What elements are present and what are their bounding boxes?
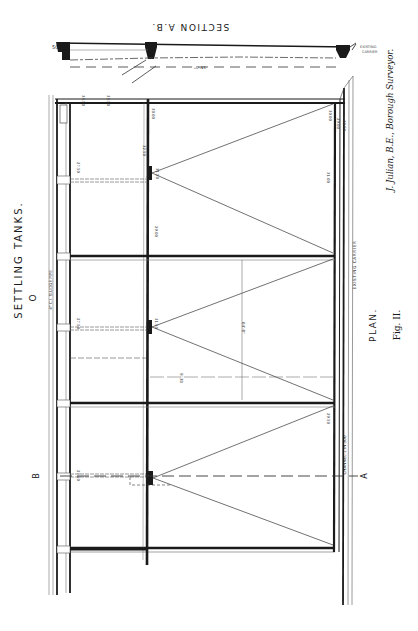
plan-view: 64'-8" 9'-30 34.50 33.50 30.00 32.50 31.… (48, 76, 358, 605)
svg-text:27.50: 27.50 (76, 470, 81, 481)
channel-label: CHANNEL 1 IN 300 (342, 435, 347, 475)
credit-line: J. Julian, B.E., Borough Surveyor. (385, 49, 395, 193)
tank-length-dimension: 9'-30 (179, 373, 184, 384)
main-title: SETTLING TANKS. (13, 201, 24, 318)
svg-text:31.00: 31.00 (326, 172, 331, 183)
svg-text:30.00: 30.00 (151, 108, 156, 119)
svg-text:33.50: 33.50 (106, 95, 111, 106)
svg-text:31.50: 31.50 (155, 168, 160, 179)
outlet-3 (148, 471, 153, 485)
section-span-dimension: 15'-0" (194, 65, 206, 70)
svg-text:27.50: 27.50 (76, 318, 81, 329)
svg-text:EXISTING: EXISTING (360, 45, 377, 49)
svg-text:31.50: 31.50 (154, 318, 159, 329)
svg-text:27.50: 27.50 (76, 162, 81, 173)
marker-a: A (360, 473, 369, 479)
svg-text:34.50: 34.50 (81, 95, 86, 106)
settling-tanks-drawing: SECTION A.B. 50 EXISTING CARRIER 15'-0" (0, 0, 418, 631)
section-right-wall (336, 45, 350, 58)
outlet-2 (147, 320, 152, 334)
svg-text:29.00: 29.00 (336, 118, 341, 129)
section-left-level: 50 (52, 44, 58, 50)
figure-label: Fig. II. (392, 310, 402, 341)
marker-b: B (32, 473, 41, 479)
tank-width-dimension: 64'-8" (241, 322, 246, 334)
svg-text:29.00: 29.00 (154, 226, 159, 237)
svg-text:30.00: 30.00 (328, 110, 333, 121)
plan-title: PLAN. (368, 308, 378, 342)
section-mid-pier (145, 42, 157, 59)
svg-text:30.00: 30.00 (342, 120, 347, 131)
svg-text:32.50: 32.50 (142, 145, 147, 156)
sludge-pipe-label: 4" C.I. SLUDGE PIPE (48, 270, 53, 310)
section-title: SECTION A.B. (151, 22, 229, 32)
level-labels: 34.50 33.50 30.00 32.50 31.50 29.00 30.0… (76, 95, 347, 481)
section-ab: SECTION A.B. 50 EXISTING CARRIER 15'-0" (52, 22, 378, 83)
outlet-1 (147, 166, 152, 180)
svg-text:29.50: 29.50 (326, 413, 331, 424)
existing-carrier-label: EXISTING CARRIER (352, 241, 357, 290)
svg-text:CARRIER: CARRIER (362, 50, 378, 54)
marker-o: O (28, 294, 38, 301)
